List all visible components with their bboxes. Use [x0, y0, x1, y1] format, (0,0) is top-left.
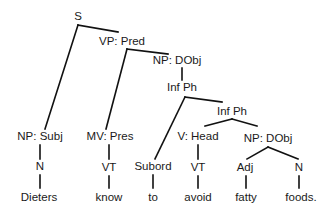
edge-npdobj2-n: [268, 147, 298, 159]
edge-s-vp: [78, 25, 118, 32]
node-vp-pred: VP: Pred: [99, 36, 145, 48]
word-dieters: Dieters: [21, 192, 57, 204]
edge-npdobj2-adj: [247, 147, 268, 159]
node-vt: VT: [102, 162, 117, 174]
node-s: S: [74, 11, 82, 23]
node-inf-ph: Inf Ph: [167, 82, 197, 94]
edge-vp-mvpres: [106, 49, 127, 129]
node-np-subj: NP: Subj: [17, 131, 62, 143]
edge-infph1-infph2: [185, 97, 222, 102]
node-n-2: N: [295, 162, 303, 174]
node-np-dobj-2: NP: DObj: [244, 133, 293, 145]
edge-vp-npdobj: [127, 49, 168, 54]
node-n: N: [36, 161, 44, 173]
node-subord: Subord: [134, 161, 171, 173]
edge-infph2-npdobj: [232, 119, 257, 126]
node-inf-ph-2: Inf Ph: [217, 106, 247, 118]
word-foods: foods.: [285, 192, 316, 204]
word-know: know: [96, 192, 123, 204]
word-to: to: [148, 192, 158, 204]
edge-infph2-vhead: [205, 119, 232, 126]
node-adj: Adj: [237, 162, 254, 174]
node-np-dobj: NP: DObj: [153, 55, 202, 67]
word-avoid: avoid: [184, 192, 212, 204]
edge-s-npsubj: [45, 25, 78, 129]
diagram-lines: [0, 0, 335, 216]
node-vt-2: VT: [191, 162, 206, 174]
node-mv-pres: MV: Pres: [87, 131, 134, 143]
edge-infph1-subord: [155, 97, 185, 159]
node-v-head: V: Head: [177, 131, 218, 143]
word-fatty: fatty: [235, 192, 257, 204]
